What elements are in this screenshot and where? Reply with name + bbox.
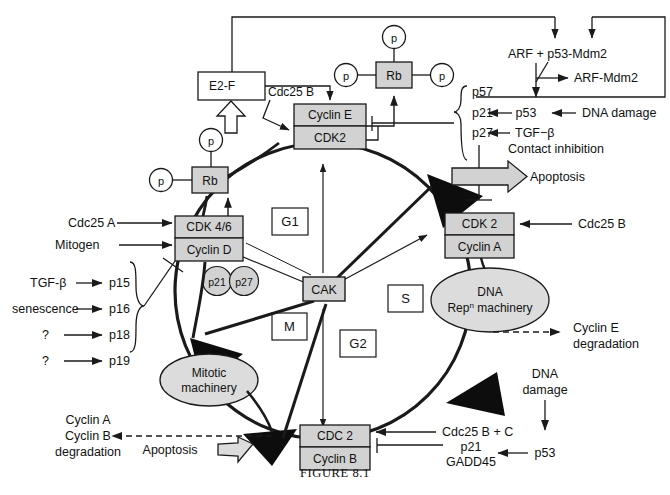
- phase-box-s: S: [388, 285, 423, 312]
- arf-mdm2-label: ARF-Mdm2: [574, 71, 638, 85]
- p21-bottom-label: p21: [461, 440, 482, 454]
- arf-mdm2-branch: [536, 62, 568, 97]
- cell-cycle-diagram: G1 S G2 M CAK CDK 4/6 Cyclin D p21: [0, 0, 670, 495]
- cycline-degradation-line1: Cyclin E: [573, 321, 619, 335]
- cki-left-stim-q2: ?: [42, 354, 49, 368]
- cdc25bc-label: Cdc25 B + C: [442, 425, 513, 439]
- cki-circle-p27-label: p27: [235, 276, 253, 288]
- cdc2-label: CDC 2: [317, 429, 353, 443]
- ellipse-dna-rep-machinery: DNA Repn machinery: [431, 258, 549, 332]
- cyclina-label: Cyclin A: [458, 240, 501, 254]
- complex-cdk46-cyclind[interactable]: CDK 4/6 Cyclin D: [175, 216, 243, 261]
- apoptosis-left-hollow-arrow: [218, 437, 253, 462]
- phase-box-g1: G1: [272, 208, 308, 235]
- dna-damage-bottom-line1: DNA: [532, 367, 559, 381]
- cki-brace-right: p57 p21 p27: [454, 85, 493, 160]
- cki-circle-p27: p27: [230, 267, 259, 296]
- cki-circle-p21: p21: [203, 267, 232, 296]
- e2f-activation-hollow-arrow: [217, 101, 245, 133]
- contact-inhibition-label: Contact inhibition: [508, 142, 604, 156]
- cdk2-label: CDK2: [314, 131, 346, 145]
- arf-p53-mdm2-label: ARF + p53-Mdm2: [508, 47, 607, 61]
- rb-node-left: p p Rb: [150, 129, 229, 194]
- phase-box-m: M: [272, 313, 307, 340]
- rb-left-phosphate-side: p: [158, 175, 164, 187]
- dna-rep-line1: DNA: [477, 285, 502, 299]
- complex-cdk2-cyclina[interactable]: CDK 2 Cyclin A: [445, 213, 514, 258]
- rb-node-top: p p p Rb: [335, 26, 454, 89]
- cdc25b-top-label: Cdc25 B: [268, 85, 314, 99]
- figure-container: G1 S G2 M CAK CDK 4/6 Cyclin D p21: [0, 0, 670, 495]
- rb-top-phosphate-left: p: [343, 70, 349, 82]
- dna-rep-line2: Repn machinery: [447, 301, 532, 315]
- cki-left-stim-senescence: senescence: [12, 302, 79, 316]
- cyclinab-degradation-line1: Cyclin A: [65, 413, 111, 427]
- mitogen-label: Mitogen: [55, 238, 100, 252]
- phase-label-m: M: [284, 319, 295, 334]
- figure-caption: FIGURE 8.1: [0, 466, 670, 481]
- cdk2a-label: CDK 2: [462, 217, 498, 231]
- cki-left-p16: p16: [109, 302, 130, 316]
- cki-circle-p21-label: p21: [208, 276, 226, 288]
- cyclinab-degradation-line2: Cyclin B: [65, 429, 111, 443]
- phase-label-g1: G1: [281, 214, 298, 229]
- cycline-degradation-line2: degradation: [573, 337, 639, 351]
- cki-right-p27: p27: [472, 126, 493, 140]
- cdk46-label: CDK 4/6: [186, 220, 232, 234]
- apoptosis-right-hollow-arrow: [452, 161, 527, 192]
- e2f-box[interactable]: E2-F: [198, 72, 265, 100]
- e2f-label: E2-F: [209, 79, 235, 93]
- rb-top-phosphate-right: p: [439, 70, 445, 82]
- cki-right-p57: p57: [472, 85, 493, 99]
- p53-right-label: p53: [516, 106, 537, 120]
- cyclind-label: Cyclin D: [187, 243, 232, 257]
- cyclind-to-ring: [193, 262, 205, 338]
- apoptosis-right-label: Apoptosis: [530, 170, 585, 184]
- cki-brace-left: TGF-β p15 senescence p16 ? p18 ? p19: [12, 262, 144, 368]
- cki-left-p18: p18: [109, 328, 130, 342]
- cak-label: CAK: [311, 283, 337, 297]
- cdc25b-to-cdk2-arrow: [263, 100, 289, 130]
- cki-right-p21: p21: [472, 106, 493, 120]
- rb-top-label: Rb: [386, 69, 402, 83]
- rb-top-phosphate-top: p: [391, 32, 397, 44]
- cdc25b-right-label: Cdc25 B: [578, 217, 626, 231]
- rb-left-to-ring: [228, 143, 279, 176]
- p21-gadd45-inhibition-line: [377, 438, 443, 453]
- cak-node: CAK: [303, 277, 345, 301]
- cki-left-p15: p15: [109, 276, 130, 290]
- phase-label-g2: G2: [349, 336, 366, 351]
- complex-cycline-cdk2[interactable]: Cyclin E CDK2: [294, 104, 366, 149]
- cdk2-to-rbtop-arrow: [366, 96, 394, 126]
- p53-bottom-label: p53: [535, 446, 556, 460]
- cki-left-p19: p19: [109, 354, 130, 368]
- mitotic-line2: machinery: [181, 381, 236, 395]
- cdc25a-label: Cdc25 A: [68, 216, 116, 230]
- cki-left-stim-tgfb: TGF-β: [30, 276, 66, 290]
- phase-label-s: S: [401, 291, 410, 306]
- mitotic-line1: Mitotic: [192, 366, 227, 380]
- cyclinab-degradation-line3: degradation: [55, 445, 121, 459]
- ellipse-mitotic-machinery: Mitotic machinery: [160, 354, 272, 432]
- tgfb-right-label: TGF−β: [515, 126, 554, 140]
- dna-damage-bottom-line2: damage: [522, 383, 567, 397]
- rb-left-phosphate-top: p: [208, 135, 214, 147]
- cyclinb-label: Cyclin B: [313, 452, 357, 466]
- dna-damage-right-label: DNA damage: [582, 106, 656, 120]
- apoptosis-left-label: Apoptosis: [143, 443, 198, 457]
- complex-cdc2-cyclinb[interactable]: CDC 2 Cyclin B: [300, 425, 370, 470]
- phase-box-g2: G2: [340, 330, 376, 357]
- cycline-label: Cyclin E: [308, 108, 352, 122]
- rb-left-label: Rb: [202, 174, 218, 188]
- cki-left-stim-q1: ?: [42, 328, 49, 342]
